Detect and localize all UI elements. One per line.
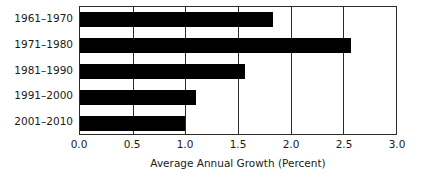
x-axis-tick-labels: 0.00.51.01.52.02.53.0: [79, 138, 397, 154]
bar-band: [80, 59, 396, 85]
bar-band: [80, 7, 396, 33]
bar-band: [80, 33, 396, 59]
bar-series: [80, 7, 396, 134]
bar: [80, 116, 185, 131]
y-axis-label: 1981–1990: [0, 58, 73, 84]
bar-band: [80, 84, 396, 110]
x-axis-tick-label: 0.0: [71, 138, 88, 150]
y-axis-label: 1991–2000: [0, 83, 73, 109]
plot-area: [79, 6, 397, 135]
x-axis-tick-label: 0.5: [124, 138, 141, 150]
y-axis-label: 1971–1980: [0, 32, 73, 58]
y-axis-label: 1961–1970: [0, 6, 73, 32]
x-axis-tick-label: 2.0: [283, 138, 300, 150]
bar: [80, 38, 351, 53]
bar: [80, 64, 245, 79]
y-axis-category-labels: 1961–19701971–19801981–19901991–20002001…: [0, 6, 73, 135]
x-axis-tick-label: 1.5: [230, 138, 247, 150]
bar-band: [80, 110, 396, 136]
bar: [80, 90, 196, 105]
bar-chart-figure: 1961–19701971–19801981–19901991–20002001…: [0, 0, 427, 180]
x-axis-tick-label: 3.0: [389, 138, 406, 150]
x-axis-title: Average Annual Growth (Percent): [79, 157, 397, 169]
x-axis-tick-label: 2.5: [336, 138, 353, 150]
x-axis-tick-label: 1.0: [177, 138, 194, 150]
y-axis-label: 2001–2010: [0, 109, 73, 135]
bar: [80, 12, 273, 27]
